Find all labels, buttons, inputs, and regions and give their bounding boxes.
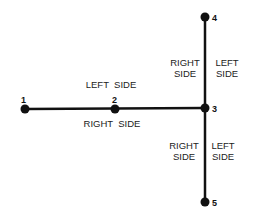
node-label-1: 1 [21,95,26,105]
node-2 [111,105,120,114]
label-horizontal-top: LEFT SIDE [86,79,137,90]
node-diagram: 1 2 3 4 5 LEFT SIDE RIGHT SIDE RIGHT SID… [0,0,255,216]
node-4 [201,13,210,22]
label-upper-right-2: SIDE [216,68,238,79]
label-upper-right-1: LEFT [215,57,238,68]
node-label-2: 2 [112,95,117,105]
node-label-5: 5 [212,198,217,208]
label-lower-left-2: SIDE [173,151,195,162]
node-1 [21,105,30,114]
node-5 [201,198,210,207]
label-lower-right-2: SIDE [212,151,234,162]
label-upper-left-2: SIDE [174,68,196,79]
label-lower-right-1: LEFT [211,140,234,151]
label-horizontal-bottom: RIGHT SIDE [84,118,141,129]
node-3 [201,104,210,113]
node-label-4: 4 [212,13,217,23]
label-upper-left-1: RIGHT [170,57,200,68]
label-lower-left-1: RIGHT [169,140,199,151]
node-label-3: 3 [212,104,217,114]
